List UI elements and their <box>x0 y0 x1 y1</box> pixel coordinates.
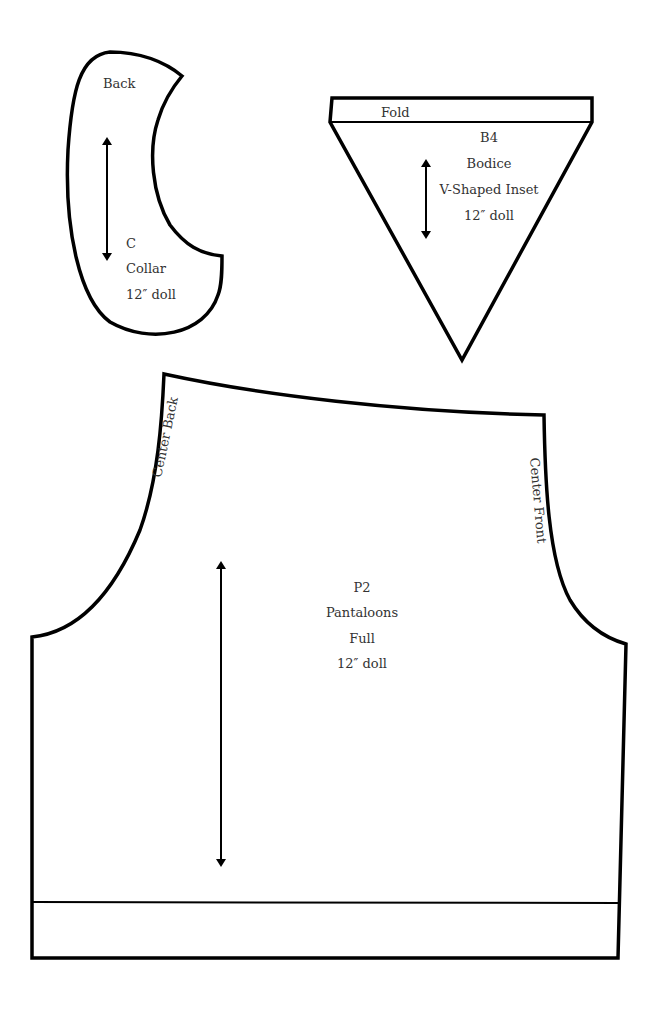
collar-code: C <box>126 236 136 251</box>
pantaloons-name: Pantaloons <box>326 605 398 620</box>
hem-line <box>32 902 618 903</box>
pattern-sheet: Back C Collar 12″ doll Fold B4 Bodice V-… <box>0 0 659 1009</box>
bodice-inset-piece: Fold B4 Bodice V-Shaped Inset 12″ doll <box>330 98 592 360</box>
bodice-size: 12″ doll <box>464 208 514 223</box>
center-back-label: Center Back <box>149 395 181 478</box>
bodice-inset-outline <box>330 98 592 360</box>
fold-label: Fold <box>381 105 410 120</box>
bodice-name: Bodice <box>467 156 512 171</box>
bodice-code: B4 <box>480 130 498 145</box>
pantaloons-code: P2 <box>353 580 370 595</box>
pantaloons-size: 12″ doll <box>337 656 387 671</box>
collar-piece: Back C Collar 12″ doll <box>67 52 222 334</box>
pantaloons-subname: Full <box>349 631 375 646</box>
pantaloons-piece: Center Back Center Front P2 Pantaloons F… <box>32 374 626 958</box>
collar-size: 12″ doll <box>126 287 176 302</box>
collar-back-label: Back <box>103 76 136 91</box>
bodice-subname: V-Shaped Inset <box>438 182 539 197</box>
collar-name: Collar <box>126 261 167 276</box>
